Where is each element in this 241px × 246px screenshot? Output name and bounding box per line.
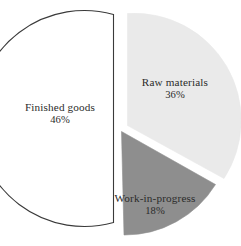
- pie-chart: Finished goods 46% Raw materials 36% Wor…: [0, 0, 241, 246]
- slice-label-work-in-progress: Work-in-progress 18%: [106, 192, 204, 216]
- slice-label-raw-materials-name: Raw materials: [133, 76, 217, 89]
- slice-label-finished-goods-name: Finished goods: [12, 101, 108, 114]
- slice-label-finished-goods: Finished goods 46%: [12, 101, 108, 125]
- slice-label-work-in-progress-value: 18%: [106, 205, 204, 217]
- slice-label-raw-materials-value: 36%: [133, 89, 217, 101]
- slice-label-finished-goods-value: 46%: [12, 114, 108, 126]
- slice-label-raw-materials: Raw materials 36%: [133, 76, 217, 100]
- slice-label-work-in-progress-name: Work-in-progress: [106, 192, 204, 205]
